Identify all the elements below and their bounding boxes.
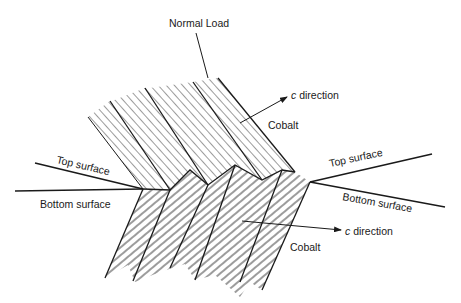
upper-direction-word: direction (296, 89, 339, 101)
upper-cobalt-label: Cobalt (268, 119, 298, 131)
lower-grains (105, 165, 310, 297)
cobalt-interface-diagram: Normal Load c direction Cobalt Top surfa… (0, 0, 461, 303)
bottom-surface-label-left: Bottom surface (40, 198, 111, 210)
upper-c-direction-label: c direction (291, 89, 339, 101)
lower-cobalt-label: Cobalt (290, 241, 320, 253)
normal-load-label: Normal Load (169, 17, 229, 29)
lower-direction-word: direction (350, 225, 393, 237)
lower-c-direction-label: c direction (345, 225, 393, 237)
normal-load-leader (196, 33, 208, 78)
bottom-surface-line-left (15, 189, 143, 191)
top-surface-label-right: Top surface (328, 146, 384, 169)
top-surface-label-left: Top surface (56, 153, 112, 177)
